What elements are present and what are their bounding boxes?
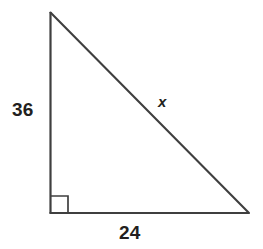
side-label-vertical-leg: 36: [12, 100, 34, 119]
triangle-drawing: [0, 0, 263, 249]
hypotenuse-line: [51, 13, 250, 214]
side-label-horizontal-leg: 24: [119, 223, 141, 242]
right-angle-marker: [51, 196, 69, 213]
triangle-figure: 36 24 x: [0, 0, 263, 249]
side-label-hypotenuse: x: [158, 94, 167, 109]
